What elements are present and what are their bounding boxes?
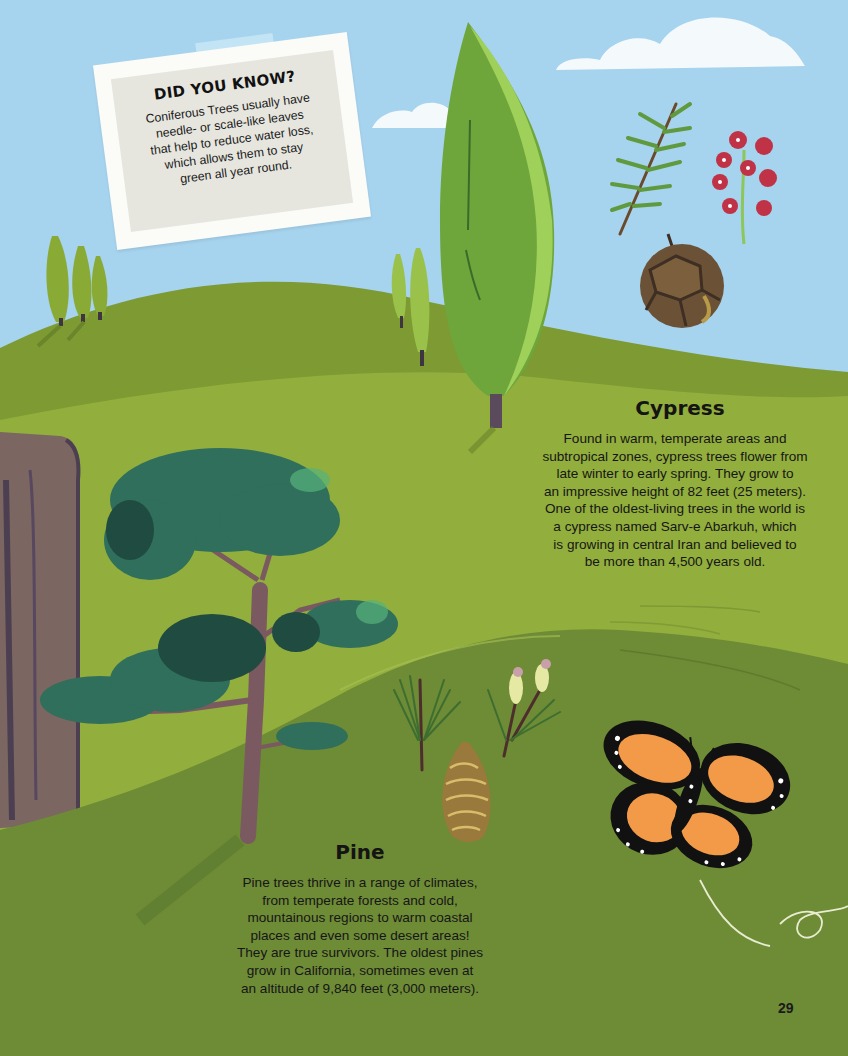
text-line: is growing in central Iran and believed …: [500, 536, 848, 554]
text-line: Found in warm, temperate areas and: [500, 430, 848, 448]
text-line: from temperate forests and cold,: [205, 892, 515, 910]
text-line: grow in California, sometimes even at: [205, 962, 515, 980]
text-line: late winter to early spring. They grow t…: [500, 465, 848, 483]
text-line: an impressive height of 82 feet (25 mete…: [500, 483, 848, 501]
rock-cliff-illustration: [0, 432, 80, 828]
page-number: 29: [778, 1000, 794, 1016]
cypress-heading: Cypress: [560, 396, 800, 420]
text-line: be more than 4,500 years old.: [500, 553, 848, 571]
pine-heading: Pine: [260, 840, 460, 864]
book-page: DID YOU KNOW? Coniferous Trees usually h…: [0, 0, 848, 1056]
text-line: places and even some desert areas!: [205, 927, 515, 945]
text-line: a cypress named Sarv-e Abarkuh, which: [500, 518, 848, 536]
text-line: mountainous regions to warm coastal: [205, 909, 515, 927]
text-line: an altitude of 9,840 feet (3,000 meters)…: [205, 980, 515, 998]
text-line: One of the oldest-living trees in the wo…: [500, 500, 848, 518]
text-line: They are true survivors. The oldest pine…: [205, 944, 515, 962]
did-you-know-card: DID YOU KNOW? Coniferous Trees usually h…: [93, 32, 371, 250]
text-line: subtropical zones, cypress trees flower …: [500, 448, 848, 466]
cypress-description: Found in warm, temperate areas and subtr…: [500, 430, 848, 571]
pine-description: Pine trees thrive in a range of climates…: [205, 874, 515, 997]
text-line: Pine trees thrive in a range of climates…: [205, 874, 515, 892]
